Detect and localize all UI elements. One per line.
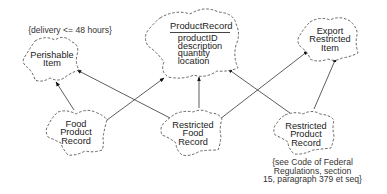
note-restricted-product-line-3: 15, paragraph 379 et seq} (250, 175, 375, 184)
node-restricted-product-record-line-3: Record (281, 139, 331, 147)
note-perishable-constraint-text: {delivery <= 48 hours} (20, 26, 120, 35)
product-record-attribute: location (178, 58, 222, 66)
node-restricted-product-record: Restricted Product Record (281, 122, 331, 147)
node-restricted-food-record-line-3: Record (167, 138, 219, 146)
node-food-product-record-line-3: Record (56, 137, 96, 145)
node-export-restricted-item: Export Restricted Item (305, 27, 355, 52)
note-perishable-constraint: {delivery <= 48 hours} (20, 26, 120, 35)
product-record-attributes: productID description quantity location (178, 35, 222, 65)
node-export-restricted-item-line-3: Item (305, 44, 355, 52)
note-restricted-product-constraint: {see Code of Federal Regulations, sectio… (250, 158, 375, 184)
edge-food-to-perishable (56, 82, 74, 110)
node-product-record: ProductRecord productID description quan… (170, 21, 230, 65)
edge-food-to-productrecord (107, 78, 164, 120)
product-record-title: ProductRecord (170, 21, 230, 33)
node-restricted-food-record: Restricted Food Record (167, 121, 219, 146)
node-food-product-record: Food Product Record (56, 120, 96, 145)
node-perishable-item: Perishable Item (28, 51, 76, 68)
edge-restrictedproduct-to-export (314, 58, 336, 109)
node-perishable-item-line-2: Item (28, 59, 76, 67)
edge-restrictedproduct-to-productrecord (228, 69, 290, 113)
